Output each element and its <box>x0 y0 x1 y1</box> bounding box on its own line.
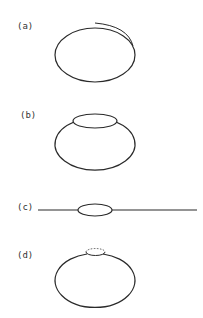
panel-b-label: (b) <box>20 110 36 120</box>
panel-d-cap-dashed <box>86 249 105 253</box>
panel-d-label: (d) <box>17 250 33 260</box>
panel-d: (d) <box>17 249 135 308</box>
panel-b-cap <box>73 114 117 128</box>
panel-a: (a) <box>17 21 135 82</box>
panel-b: (b) <box>20 110 135 170</box>
panel-a-outer-arc <box>95 23 133 46</box>
panel-c-label: (c) <box>17 202 33 212</box>
figure-canvas: (a) (b) (c) (d) <box>0 0 203 318</box>
panel-a-label: (a) <box>17 21 33 31</box>
panel-d-cap-solid <box>86 252 105 256</box>
panel-d-body <box>55 254 135 307</box>
panel-b-body <box>55 122 135 170</box>
panel-a-ellipse <box>55 28 135 82</box>
panel-c: (c) <box>17 202 197 216</box>
panel-c-ellipse <box>78 204 112 216</box>
